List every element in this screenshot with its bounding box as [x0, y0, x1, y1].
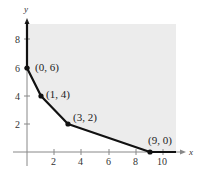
- x-tick-label: 8: [133, 156, 138, 167]
- y-tick-label: 6: [15, 63, 20, 74]
- vertex-label: (0, 6): [35, 61, 59, 74]
- x-tick-label: 2: [51, 156, 56, 167]
- x-axis-arrow-icon: [180, 150, 186, 155]
- y-tick-label: 4: [15, 91, 20, 102]
- vertex-point: [147, 149, 152, 154]
- vertex-label: (9, 0): [148, 134, 172, 147]
- vertex-point: [24, 65, 29, 70]
- y-tick-label: 8: [15, 34, 20, 45]
- vertex-point: [38, 93, 43, 98]
- x-axis-label: x: [188, 147, 193, 157]
- y-tick-label: 2: [15, 119, 20, 130]
- vertex-label: (1, 4): [46, 88, 70, 101]
- x-tick-label: 4: [78, 156, 83, 167]
- y-axis-label: y: [23, 4, 28, 14]
- vertex-point: [65, 121, 70, 126]
- feasible-region-chart: x y 2 4 6 8 10 2 4 6 8 (0, 6) (1, 4) (3,…: [0, 0, 201, 175]
- x-tick-label: 6: [106, 156, 111, 167]
- vertex-label: (3, 2): [73, 111, 97, 124]
- x-tick-label: 10: [157, 156, 167, 167]
